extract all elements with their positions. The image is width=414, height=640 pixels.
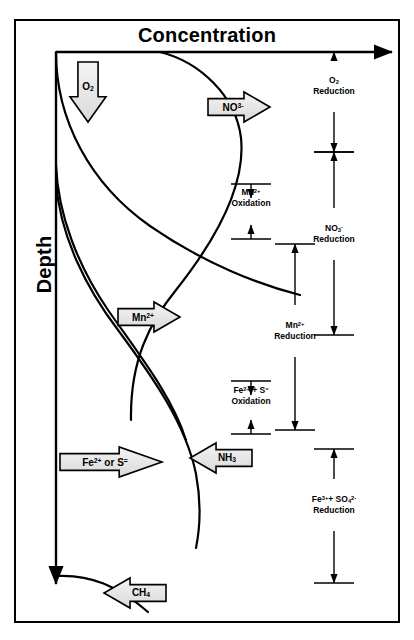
nh3-curve <box>56 182 200 548</box>
callout-label-no3: NO3- <box>208 92 270 122</box>
no3-reduction-species: NO3- <box>325 223 343 233</box>
mn2-reduction-process: Reduction <box>274 331 316 341</box>
fe2-s-oxidation-species: Fe2+ + S= <box>233 385 268 395</box>
fe2-s-oxidation-process: Oxidation <box>231 396 270 406</box>
mn2-oxidation-species: Mn2+ <box>242 187 261 197</box>
o2-reduction-species: O2 <box>329 75 339 85</box>
callout-label-ch4: CH4 <box>104 578 166 608</box>
callout-label-fe2-or-s: Fe2+ or S= <box>60 447 162 477</box>
fe3-so4-reduction-species: Fe3++ SO42- <box>312 494 356 504</box>
callout-label-mn2: Mn2+ <box>118 302 180 332</box>
mn2-oxidation-process: Oxidation <box>231 198 270 208</box>
o2-reduction-process: Reduction <box>313 86 355 96</box>
o2-reduction-label: O2Reduction <box>274 75 394 97</box>
mn2-reduction-species: Mn2+ <box>286 320 305 330</box>
mn2-reduction-label: Mn2+Reduction <box>235 320 355 341</box>
fe3-so4-reduction-label: Fe3++ SO42-Reduction <box>274 494 394 516</box>
fe3-so4-reduction-process: Reduction <box>313 505 355 515</box>
mn2-oxidation-label: Mn2+Oxidation <box>191 187 311 208</box>
callout-label-o2: O2 <box>70 62 106 122</box>
callout-label-nh3: NH3 <box>190 443 252 473</box>
redox-zonation-figure: Concentration Depth O2ReductionMn2+Oxida… <box>0 0 414 640</box>
no3-reduction-process: Reduction <box>313 234 355 244</box>
no3-reduction-label: NO3-Reduction <box>274 223 394 245</box>
fe2-s-oxidation-label: Fe2+ + S=Oxidation <box>191 385 311 406</box>
o2-reduction-bracket <box>314 52 354 152</box>
